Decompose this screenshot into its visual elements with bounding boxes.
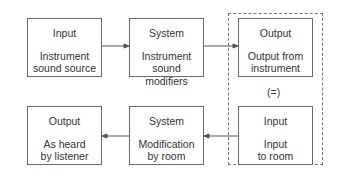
arrowhead-left-icon: [102, 134, 107, 138]
arrowhead-right-icon: [233, 44, 238, 48]
flow-arrows: [0, 0, 339, 188]
arrowhead-right-icon: [124, 44, 129, 48]
arrowhead-left-icon: [204, 134, 209, 138]
